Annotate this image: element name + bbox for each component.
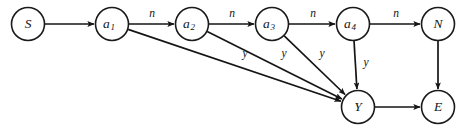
- edge-label-a3-a4: n: [310, 7, 316, 19]
- node-label-sub-a1: 1: [110, 22, 115, 32]
- edge-label-a4-N: n: [393, 7, 399, 19]
- node-label-N: N: [432, 16, 443, 31]
- node-a3[interactable]: a3: [256, 8, 289, 41]
- node-a1[interactable]: a1: [96, 8, 129, 41]
- node-label-sub-a4: 4: [351, 22, 356, 32]
- edge-label-a1-Y: y: [241, 47, 248, 60]
- state-diagram: Sa1a2a3a4NYE nnnnyyyy: [0, 0, 473, 134]
- edge-label-a2-Y: y: [280, 47, 287, 60]
- node-label-S: S: [25, 16, 32, 31]
- edge-label-a2-a3: n: [229, 7, 235, 19]
- diagram-canvas: Sa1a2a3a4NYE nnnnyyyy: [0, 0, 473, 134]
- node-label-sub-a2: 2: [190, 22, 195, 32]
- node-N[interactable]: N: [422, 8, 455, 41]
- edge-a4-Y: [354, 41, 357, 89]
- edge-a2-Y: [207, 32, 342, 99]
- node-S[interactable]: S: [12, 8, 45, 41]
- edge-label-a4-Y: y: [362, 56, 369, 69]
- node-a2[interactable]: a2: [176, 8, 209, 41]
- node-Y[interactable]: Y: [342, 91, 375, 124]
- node-a4[interactable]: a4: [337, 8, 370, 41]
- edge-a1-Y: [128, 29, 341, 101]
- node-label-E: E: [433, 99, 443, 114]
- edge-label-a1-a2: n: [149, 7, 155, 19]
- edge-label-a3-Y: y: [318, 47, 325, 60]
- node-label-sub-a3: 3: [269, 22, 275, 32]
- node-E[interactable]: E: [422, 91, 455, 124]
